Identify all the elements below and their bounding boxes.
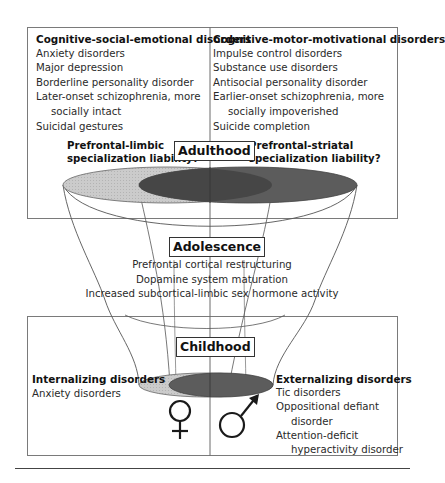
adolescence-stage-label: Adolescence — [169, 237, 265, 257]
liability-line: specialization liability? — [249, 153, 381, 166]
male-symbol-icon — [220, 396, 257, 437]
list-item: socially impoverished — [213, 105, 445, 120]
adulthood-right-list: Cognitive-motor-motivational disorders I… — [213, 32, 445, 134]
list-item: Tic disorders — [276, 386, 412, 400]
list-item: Attention-deficit — [276, 429, 412, 443]
process-item: Dopamine system maturation — [60, 273, 364, 288]
list-item: Anxiety disorders — [32, 387, 165, 402]
childhood-left-list: Internalizing disorders Anxiety disorder… — [32, 372, 165, 401]
list-item: hyperactivity disorder — [276, 443, 412, 457]
process-item: Prefrontal cortical restructuring — [60, 258, 364, 273]
childhood-right-list: Externalizing disorders Tic disorders Op… — [276, 372, 412, 457]
list-item: Earlier-onset schizophrenia, more — [213, 90, 445, 105]
internalizing-heading: Internalizing disorders — [32, 372, 165, 387]
adulthood-right-heading: Cognitive-motor-motivational disorders — [213, 32, 445, 47]
adulthood-stage-label: Adulthood — [174, 141, 255, 161]
list-item: Suicide completion — [213, 120, 445, 135]
list-item: Oppositional defiant — [276, 400, 412, 414]
female-symbol-icon — [170, 401, 190, 439]
childhood-stage-label: Childhood — [176, 337, 255, 357]
list-item: disorder — [276, 415, 412, 429]
process-item: Increased subcortical-limbic sex hormone… — [60, 287, 364, 302]
list-item: Impulse control disorders — [213, 47, 445, 62]
list-item: Substance use disorders — [213, 61, 445, 76]
adolescence-processes: Prefrontal cortical restructuring Dopami… — [60, 258, 364, 302]
externalizing-heading: Externalizing disorders — [276, 372, 412, 386]
prefrontal-striatal-liability-label: Prefrontal-striatal specialization liabi… — [249, 140, 381, 165]
list-item: Antisocial personality disorder — [213, 76, 445, 91]
externalizing-ellipse — [169, 373, 273, 397]
liability-line: Prefrontal-striatal — [249, 140, 381, 153]
